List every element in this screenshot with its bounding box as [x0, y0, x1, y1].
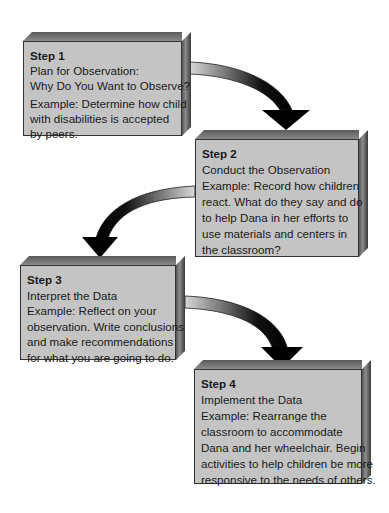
step-example: by peers. [30, 126, 175, 141]
step-example: classroom to accommodate [201, 424, 355, 440]
arrow-step3-to-step4 [185, 296, 303, 368]
step-heading: Plan for Observation: [30, 63, 175, 78]
box-side-bevel [176, 256, 185, 360]
step-title: Step 4 [201, 376, 355, 392]
box-face: Step 3 Interpret the Data Example: Refle… [20, 265, 176, 360]
step-title: Step 1 [30, 48, 175, 63]
step-1-box: Step 1 Plan for Observation: Why Do You … [23, 32, 191, 136]
box-face: Step 2 Conduct the Observation Example: … [195, 139, 359, 257]
step-example: responsive to the needs of others. [201, 472, 355, 488]
box-top-bevel [195, 130, 359, 139]
step-4-box: Step 4 Implement the Data Example: Rearr… [194, 360, 371, 484]
arrow-step2-to-step3 [82, 186, 195, 258]
step-example: Dana and her wheelchair. Begin [201, 440, 355, 456]
step-example: the classroom? [202, 242, 352, 258]
step-title: Step 3 [27, 272, 169, 288]
box-top-bevel [23, 32, 182, 41]
step-example: for what you are going to do. [27, 350, 169, 366]
box-top-bevel [20, 256, 176, 265]
box-face: Step 1 Plan for Observation: Why Do You … [23, 41, 182, 136]
step-example: with disabilities is accepted [30, 111, 175, 126]
step-3-box: Step 3 Interpret the Data Example: Refle… [20, 256, 185, 360]
step-example: react. What do they say and do [202, 194, 352, 210]
step-example: activities to help children be more [201, 456, 355, 472]
step-heading: Interpret the Data [27, 288, 169, 304]
step-example: Example: Determine how child [30, 96, 175, 111]
step-heading: Conduct the Observation [202, 162, 352, 178]
step-example: Example: Rearrange the [201, 408, 355, 424]
step-example: to help Dana in her efforts to [202, 210, 352, 226]
step-heading: Why Do You Want to Observe? [30, 78, 175, 93]
step-title: Step 2 [202, 146, 352, 162]
step-example: observation. Write conclusions [27, 319, 169, 335]
step-example: Example: Reflect on your [27, 303, 169, 319]
arrow-step1-to-step2 [190, 62, 310, 130]
step-example: use materials and centers in [202, 226, 352, 242]
step-example: Example: Record how children [202, 178, 352, 194]
step-2-box: Step 2 Conduct the Observation Example: … [195, 130, 368, 257]
box-face: Step 4 Implement the Data Example: Rearr… [194, 369, 362, 484]
step-heading: Implement the Data [201, 392, 355, 408]
box-side-bevel [359, 130, 368, 257]
box-top-bevel [194, 360, 362, 369]
step-example: and make recommendations [27, 334, 169, 350]
